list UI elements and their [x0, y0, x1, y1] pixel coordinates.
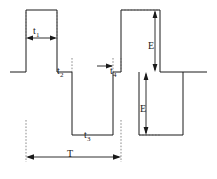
- t1-arrow-right: [50, 36, 57, 41]
- period-arrow-left: [26, 154, 34, 159]
- label-t4-subscript: 4: [113, 71, 117, 79]
- label-e-upper: E: [148, 36, 154, 52]
- label-period: T: [67, 144, 73, 160]
- e-lower-arrow-bottom: [144, 127, 149, 135]
- label-e-lower-base: E: [140, 103, 146, 114]
- t1-dimension: [26, 36, 57, 41]
- label-e-lower: E: [140, 99, 146, 115]
- e-upper-arrow-bottom: [153, 64, 158, 72]
- label-t3-subscript: 3: [87, 135, 91, 143]
- label-t1: t1: [33, 21, 39, 37]
- label-t3: t3: [84, 125, 90, 141]
- label-period-base: T: [67, 148, 73, 159]
- label-e-upper-base: E: [148, 40, 154, 51]
- label-t4: t4: [110, 61, 116, 77]
- label-t2-subscript: 2: [60, 71, 64, 79]
- t1-arrow-left: [26, 36, 33, 41]
- pulse-timing-diagram: t1 t2 t3 t4 T E E: [0, 0, 217, 179]
- period-arrow-right: [113, 154, 121, 159]
- extension-lines: [26, 10, 160, 162]
- period-dimension: [26, 154, 121, 159]
- e-upper-arrow-top: [153, 10, 158, 18]
- label-t1-subscript: 1: [36, 31, 40, 39]
- label-t2: t2: [57, 61, 63, 77]
- waveform-trace: [10, 10, 207, 135]
- e-lower-arrow-top: [144, 72, 149, 80]
